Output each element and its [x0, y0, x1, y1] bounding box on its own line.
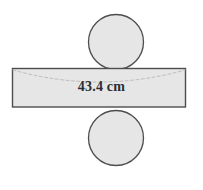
top-circle — [89, 15, 144, 70]
bottom-circle — [89, 111, 144, 166]
figure-canvas: 43.4 cm — [0, 0, 203, 190]
cylinder-net-diagram — [0, 0, 203, 190]
dimension-label: 43.4 cm — [0, 79, 203, 95]
